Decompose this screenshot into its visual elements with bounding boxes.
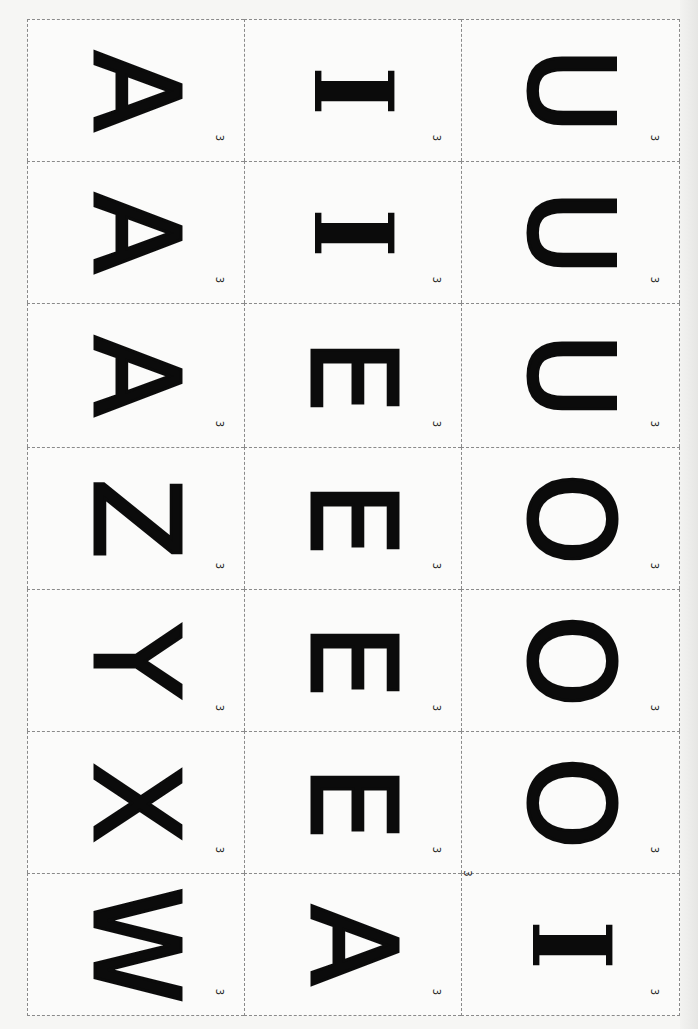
letter-card: X3 (27, 731, 244, 873)
card-number: 3 (214, 135, 224, 141)
card-number: 3 (649, 847, 659, 853)
letter-card: A3 (27, 161, 244, 303)
card-number: 3 (431, 847, 441, 853)
card-letter: U (512, 332, 630, 418)
card-letter: A (294, 904, 412, 985)
letter-card: O3 (461, 731, 680, 873)
card-letter: E (294, 623, 412, 698)
card-number: 3 (649, 563, 659, 569)
card-letter: E (294, 481, 412, 556)
letter-card: E3 (244, 731, 461, 873)
card-number: 3 (649, 989, 659, 995)
card-letter: Z (77, 478, 195, 559)
card-number: 3 (214, 277, 224, 283)
card-letter: O (512, 472, 630, 565)
card-letter: A (77, 50, 195, 131)
letter-card: O3 (461, 447, 680, 589)
card-letter: E (294, 338, 412, 413)
card-letter: W (77, 886, 195, 1003)
card-number: 3 (214, 563, 224, 569)
card-letter: U (512, 189, 630, 275)
letter-card: U3 (461, 161, 680, 303)
card-number: 3 (431, 277, 441, 283)
card-letter: E (294, 765, 412, 840)
card-number: 3 (431, 705, 441, 711)
letter-card: O3 (461, 589, 680, 731)
letter-card: U3 (461, 19, 680, 161)
card-number: 3 (649, 135, 659, 141)
card-letter: I (517, 919, 625, 970)
card-number: 3 (431, 563, 441, 569)
card-number: 3 (431, 421, 441, 427)
card-number: 3 (214, 847, 224, 853)
letter-card: E3 (244, 303, 461, 447)
page-edge-shadow (680, 0, 698, 1029)
letter-card: U3 (461, 303, 680, 447)
letter-card: I3 (244, 19, 461, 161)
card-letter: O (512, 756, 630, 849)
letter-card: E3 (244, 589, 461, 731)
card-number: 3 (649, 705, 659, 711)
card-number: 3 (649, 421, 659, 427)
card-number: 3 (214, 989, 224, 995)
letter-card: A3 (27, 19, 244, 161)
card-letter: O (512, 614, 630, 707)
letter-card-sheet: A3A3A3Z3Y3X3W3I3I3E3E3E3E3A3U3U3U3O3O3O3… (27, 19, 680, 1016)
card-letter: A (77, 335, 195, 416)
card-number: 3 (431, 135, 441, 141)
letter-card: A3 (27, 303, 244, 447)
letter-card: A3 (244, 873, 461, 1016)
letter-card: Y3 (27, 589, 244, 731)
letter-card: E3 (244, 447, 461, 589)
card-letter: A (77, 192, 195, 273)
card-letter: U (512, 47, 630, 133)
card-number: 3 (649, 277, 659, 283)
card-letter: I (299, 207, 407, 258)
letter-card: W3 (27, 873, 244, 1016)
card-letter: I (299, 65, 407, 116)
card-number: 3 (214, 421, 224, 427)
stray-page-number: 3 (462, 870, 473, 876)
card-letter: Y (77, 624, 195, 696)
letter-card: Z3 (27, 447, 244, 589)
card-letter: X (77, 762, 195, 843)
letter-card: I3 (461, 873, 680, 1016)
card-number: 3 (431, 989, 441, 995)
card-number: 3 (214, 705, 224, 711)
letter-card: I3 (244, 161, 461, 303)
